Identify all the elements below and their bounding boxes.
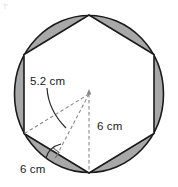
side-label: 6 cm <box>20 163 45 175</box>
circle-hexagon-diagram: 5.2 cm 6 cm 6 cm <box>0 0 178 187</box>
radius-label: 6 cm <box>97 120 122 132</box>
apothem-label: 5.2 cm <box>30 75 65 87</box>
geometry-figure: 5.2 cm 6 cm 6 cm <box>0 0 178 187</box>
